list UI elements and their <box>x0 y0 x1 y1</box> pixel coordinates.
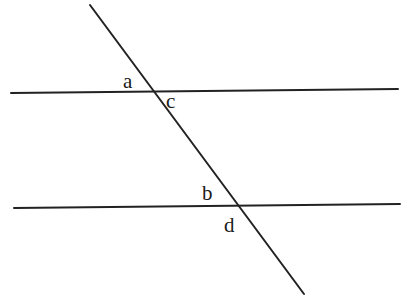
angle-label-c: c <box>166 89 175 113</box>
angle-label-d: d <box>224 213 235 237</box>
angle-label-a: a <box>123 69 133 93</box>
parallel-lines-diagram: a c b d <box>0 0 404 299</box>
angle-label-b: b <box>202 181 213 205</box>
top-parallel-line <box>11 89 398 93</box>
transversal-line <box>90 5 304 294</box>
